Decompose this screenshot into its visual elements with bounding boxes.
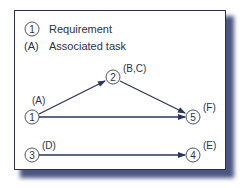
legend-requirement-label: Requirement — [49, 23, 112, 35]
node-1-label: 1 — [29, 112, 35, 123]
node-4-label: 4 — [190, 150, 196, 161]
node-2: 2 (B,C) — [106, 63, 146, 84]
node-2-task: (B,C) — [123, 63, 146, 74]
edges — [39, 81, 185, 155]
legend: 1 Requirement (A) Associated task — [24, 22, 127, 52]
node-5: 5 (F) — [186, 102, 216, 124]
legend-task: (A) Associated task — [24, 40, 127, 52]
node-4-task: (E) — [203, 140, 216, 151]
node-5-task: (F) — [203, 102, 216, 113]
node-4: 4 (E) — [186, 140, 216, 162]
node-5-label: 5 — [190, 112, 196, 123]
node-1: 1 (A) — [25, 95, 45, 124]
node-3-task: (D) — [42, 140, 56, 151]
node-2-label: 2 — [110, 72, 116, 83]
legend-requirement-symbol: 1 — [29, 24, 35, 35]
legend-task-label: Associated task — [49, 40, 127, 52]
legend-task-symbol: (A) — [24, 40, 39, 52]
legend-requirement: 1 Requirement — [25, 22, 112, 36]
dependency-diagram: 1 Requirement (A) Associated task 1 (A) … — [0, 0, 246, 188]
node-3-label: 3 — [29, 150, 35, 161]
edge-2-5 — [120, 81, 185, 113]
edge-1-2 — [39, 81, 105, 114]
node-3: 3 (D) — [25, 140, 56, 162]
node-1-task: (A) — [32, 95, 45, 106]
